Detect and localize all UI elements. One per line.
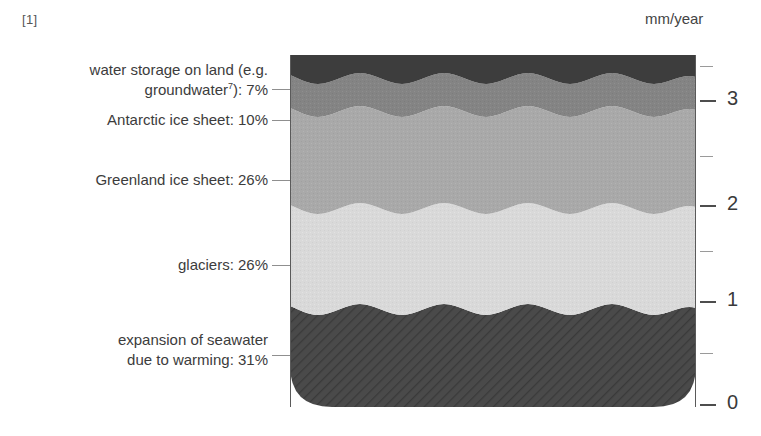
label-water-storage: water storage on land (e.g.groundwater7)… <box>10 60 268 100</box>
band-expansion-of-seawater <box>290 304 696 407</box>
axis-tick-label-2: 2 <box>727 192 738 215</box>
leader-line-water-storage <box>272 89 290 90</box>
tick-dash <box>700 404 716 406</box>
band-glaciers <box>290 203 696 315</box>
tick-dash <box>700 205 716 207</box>
axis-unit-caption: mm/year <box>645 10 703 27</box>
tick-dash <box>700 156 713 157</box>
tick-dash <box>700 251 713 252</box>
stacked-area-chart <box>290 55 696 407</box>
tick-dash <box>700 301 716 303</box>
axis-tick-label-3: 3 <box>727 87 738 110</box>
footnote-marker: 7 <box>228 81 233 91</box>
tick-dash <box>700 66 713 67</box>
chart-svg <box>290 55 696 407</box>
axis-tick-label-0: 0 <box>727 391 738 414</box>
figure-number: [1] <box>22 12 37 27</box>
plot-right-rule <box>695 55 696 407</box>
leader-line-expansion <box>272 355 290 356</box>
label-glaciers: glaciers: 26% <box>10 255 268 275</box>
plot-left-rule <box>290 55 291 407</box>
tick-dash <box>700 353 713 354</box>
leader-line-greenland <box>272 180 290 181</box>
label-expansion-of-seawater: expansion of seawaterdue to warming: 31% <box>10 330 268 370</box>
band-greenland-ice-sheet <box>290 106 696 214</box>
label-greenland-ice-sheet: Greenland ice sheet: 26% <box>10 170 268 190</box>
label-antarctic-ice-sheet: Antarctic ice sheet: 10% <box>10 110 268 130</box>
axis-tick-label-1: 1 <box>727 288 738 311</box>
value-axis: 3 2 1 0 <box>700 55 761 436</box>
leader-line-antarctic <box>272 120 290 121</box>
leader-line-glaciers <box>272 265 290 266</box>
tick-dash <box>700 100 716 102</box>
